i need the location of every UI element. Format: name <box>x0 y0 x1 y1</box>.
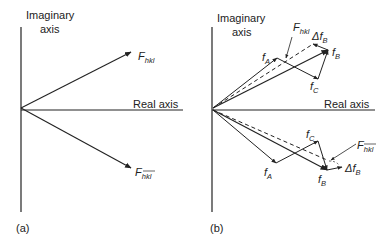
resultant-without-anomalous <box>213 50 328 108</box>
vector-delta-fB <box>327 167 342 170</box>
label-F-hkl: Fhkl <box>138 50 155 65</box>
label-fB: fB <box>318 173 326 188</box>
vector-F-hkl-bar <box>21 108 131 168</box>
vector-fA <box>213 110 276 163</box>
panel-a: Imaginary axis Real axis Fhkl Fhkl (a) <box>16 9 183 234</box>
label-F-hkl-bar: Fhkl <box>135 166 152 181</box>
imaginary-axis-label-line1: Imaginary <box>217 12 266 24</box>
label-fB: fB <box>332 46 340 61</box>
caption-b: (b) <box>210 222 223 234</box>
delta-fB-arc <box>329 161 339 165</box>
label-F-hkl-bar: Fhkl <box>357 139 374 154</box>
label-delta-fB: ΔfB <box>344 162 360 177</box>
pointer-F-hkl-bar <box>331 144 356 160</box>
lower-construction: fA fC fB ΔfB Fhkl <box>213 110 376 188</box>
argand-diagram-figure: Imaginary axis Real axis Fhkl Fhkl (a) I… <box>0 0 388 244</box>
vector-fC <box>276 141 318 163</box>
imaginary-axis-label-line2: axis <box>232 26 252 38</box>
panel-b: Imaginary axis Real axis fA fC fB ΔfB Fh… <box>210 12 376 234</box>
caption-a: (a) <box>16 222 29 234</box>
real-axis-label: Real axis <box>324 98 370 110</box>
label-fC: fC <box>310 80 319 95</box>
label-delta-fB: ΔfB <box>311 30 327 45</box>
imaginary-axis-label-line2: axis <box>40 23 60 35</box>
vector-F-hkl <box>21 52 131 108</box>
label-fA: fA <box>264 166 272 181</box>
real-axis-label: Real axis <box>133 98 179 110</box>
label-fC: fC <box>306 128 315 143</box>
vector-fC <box>277 58 318 79</box>
label-fA: fA <box>262 51 270 66</box>
pointer-F-hkl <box>286 37 292 58</box>
imaginary-axis-label-line1: Imaginary <box>26 9 75 21</box>
label-F-hkl: Fhkl <box>293 21 310 36</box>
